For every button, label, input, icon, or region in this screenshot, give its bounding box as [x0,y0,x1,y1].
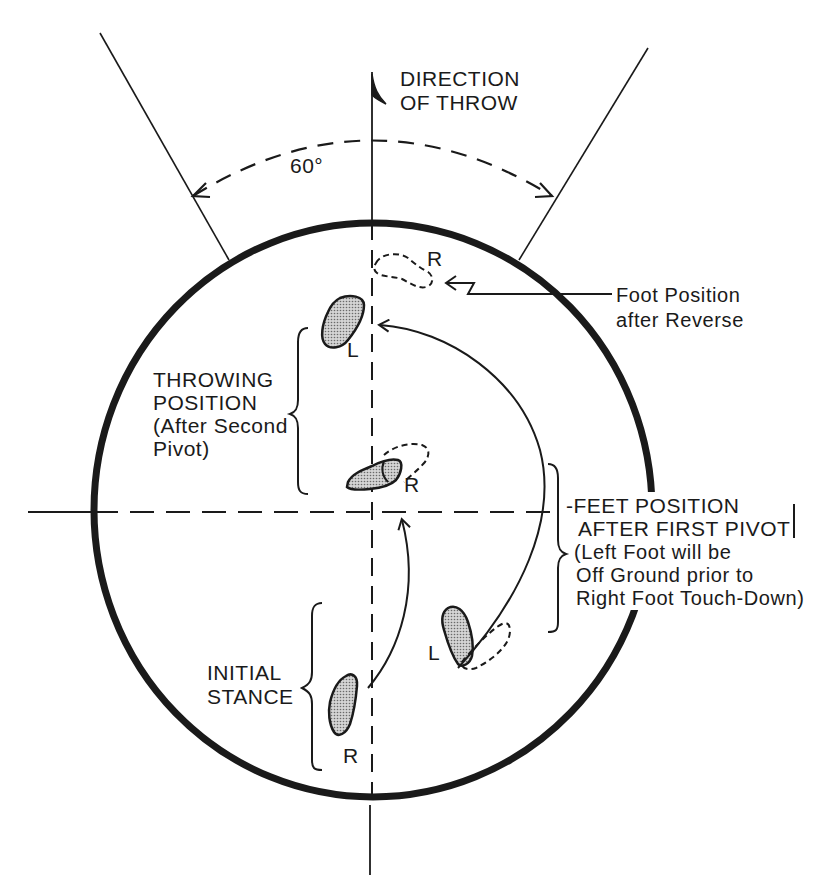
foot-letter-throwing-r: R [404,473,419,496]
foot-letter-pivot-l: L [428,641,440,664]
foot-outline-after-reverse [374,254,432,287]
pivot-arrow-small [368,520,409,688]
angle-label: 60° [290,154,323,177]
direction-of-throw-label: DIRECTION OF THROW [400,67,526,114]
sector-line-left [100,33,229,260]
reverse-pointer-line [446,283,612,294]
initial-stance-label: INITIAL STANCE [207,661,294,708]
brace-initial-stance [302,603,322,770]
angle-arrow-right-icon [535,183,552,197]
throwing-circle-diagram: R L R L R DIRECTION OF THROW 60° Foot Po… [0,0,840,895]
foot-letter-reverse-r: R [427,247,442,270]
foot-initial-right [329,674,357,734]
foot-throwing-right [347,459,401,489]
foot-letter-initial-r: R [343,744,358,767]
foot-letter-throwing-l: L [347,338,359,361]
sector-line-right [519,48,648,260]
direction-flag-icon [372,74,386,104]
foot-after-reverse-label: Foot Position after Reverse [616,284,747,331]
brace-throwing-position [290,328,308,494]
brace-first-pivot [548,464,566,632]
throwing-position-label: THROWING POSITION (After Second Pivot) [153,368,294,460]
